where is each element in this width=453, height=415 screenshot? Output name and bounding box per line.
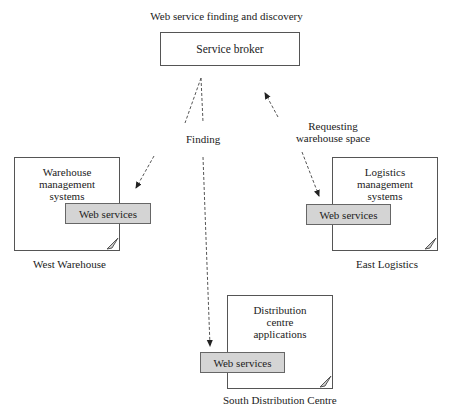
west-system-line-3: systems: [15, 190, 119, 202]
south-web-services-label: Web services: [213, 357, 271, 369]
finding-edge-label: Finding: [186, 133, 220, 145]
west-warehouse-caption: West Warehouse: [33, 258, 106, 270]
west-system-line-1: Warehouse: [15, 166, 119, 178]
requesting-label-line-2: warehouse space: [283, 132, 383, 144]
service-broker-box: Service broker: [160, 32, 300, 66]
west-system-line-2: management: [15, 178, 119, 190]
south-web-services-box: Web services: [200, 352, 285, 373]
west-web-services-label: Web services: [79, 208, 137, 220]
finding-line-upper-right: [201, 78, 203, 122]
east-system-line-2: management: [333, 178, 437, 190]
requesting-arrow-east: [302, 152, 319, 196]
south-system-line-2: centre: [228, 316, 332, 328]
south-distribution-caption: South Distribution Centre: [223, 394, 337, 406]
finding-line-upper-left: [185, 78, 201, 123]
east-logistics-caption: East Logistics: [356, 258, 418, 270]
south-system-line-1: Distribution: [228, 304, 332, 316]
east-system-line-1: Logistics: [333, 166, 437, 178]
east-web-services-label: Web services: [319, 209, 377, 221]
requesting-edge-label: Requesting warehouse space: [283, 120, 383, 144]
service-broker-label: Service broker: [196, 43, 263, 55]
south-system-line-3: applications: [228, 328, 332, 340]
finding-arrow-west: [136, 156, 154, 188]
finding-arrow-south: [203, 157, 210, 346]
west-web-services-box: Web services: [65, 203, 151, 224]
south-distribution-document: Distribution centre applications: [227, 295, 333, 389]
requesting-arrow-broker: [265, 93, 278, 117]
east-web-services-box: Web services: [306, 204, 391, 225]
requesting-label-line-1: Requesting: [283, 120, 383, 132]
east-system-line-3: systems: [333, 190, 437, 202]
diagram-title: Web service finding and discovery: [0, 10, 453, 22]
